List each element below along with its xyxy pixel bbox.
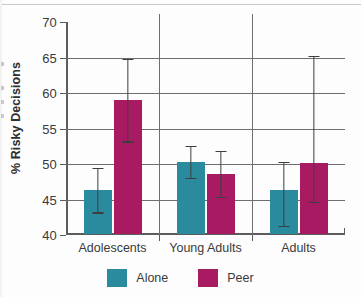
y-axis-tick-label: 45 [42, 192, 57, 207]
y-axis-tick-label: 40 [42, 228, 57, 243]
y-axis-tick [60, 129, 66, 130]
error-bar-cap-bottom [278, 226, 289, 227]
legend-label: Alone [136, 271, 168, 285]
x-axis-tick [252, 235, 253, 241]
x-axis-category-label: Young Adults [169, 241, 242, 255]
legend-item: Peer [198, 269, 253, 287]
y-axis-tick [60, 200, 66, 201]
error-bar [270, 162, 298, 227]
error-bar-cap-top [185, 146, 196, 147]
x-axis-end-tick [344, 228, 345, 235]
scan-artifact [1, 114, 4, 118]
scan-edge-line [0, 4, 361, 5]
group-separator [159, 14, 160, 241]
x-axis-category-label: Adolescents [78, 241, 146, 255]
x-axis-end-tick [66, 228, 67, 235]
y-axis-tick [60, 235, 66, 236]
error-bar-cap-bottom [215, 197, 226, 198]
group-separator [252, 14, 253, 241]
error-bar [177, 146, 205, 179]
error-bar-stem [190, 146, 191, 179]
legend-color-swatch [107, 269, 127, 287]
scan-artifact [1, 86, 4, 90]
error-bar-cap-bottom [92, 212, 103, 213]
error-bar-stem [283, 162, 284, 227]
x-axis-category-label: Adults [281, 241, 316, 255]
y-axis-tick [60, 22, 66, 23]
bar-chart-figure: % Risky Decisions 40455055606570 Adolesc… [0, 0, 361, 297]
scan-artifact [1, 62, 4, 66]
scan-artifact [1, 100, 4, 104]
y-axis-tick-label: 55 [42, 121, 57, 136]
x-axis-tick [159, 235, 160, 241]
error-bar [84, 168, 112, 214]
y-axis-tick-label: 60 [42, 86, 57, 101]
error-bar-stem [97, 168, 98, 214]
error-bar-cap-top [215, 151, 226, 152]
error-bar-cap-bottom [122, 141, 133, 142]
error-bar-stem [220, 151, 221, 199]
y-axis-tick [60, 164, 66, 165]
y-axis-tick-label: 50 [42, 157, 57, 172]
y-axis-title: % Risky Decisions [9, 62, 23, 174]
error-bar-cap-top [92, 168, 103, 169]
error-bar [114, 59, 142, 143]
y-axis-tick [60, 58, 66, 59]
y-axis-tick-label: 70 [42, 15, 57, 30]
plot-area: 40455055606570 AdolescentsYoung AdultsAd… [66, 22, 345, 235]
error-bar-cap-top [122, 59, 133, 60]
legend-label: Peer [227, 271, 253, 285]
legend-color-swatch [198, 269, 218, 287]
error-bar [300, 56, 328, 203]
legend-item: Alone [107, 269, 168, 287]
chart-legend: AlonePeer [0, 269, 361, 287]
error-bar-stem [127, 59, 128, 143]
error-bar-cap-bottom [308, 202, 319, 203]
error-bar-cap-top [278, 162, 289, 163]
error-bar-cap-top [308, 56, 319, 57]
error-bar-cap-bottom [185, 178, 196, 179]
y-axis-tick [60, 93, 66, 94]
error-bar [207, 151, 235, 199]
y-axis-tick-label: 65 [42, 50, 57, 65]
scan-edge-left [0, 0, 2, 297]
error-bar-stem [313, 56, 314, 203]
